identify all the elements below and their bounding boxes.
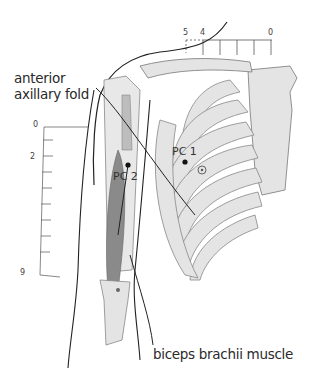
arm-scale-2: 2 <box>30 152 35 161</box>
top-scale-0: 0 <box>268 28 273 37</box>
arm-chest-illustration <box>0 0 316 383</box>
label-anterior: anterior <box>14 70 65 86</box>
top-scale-5: 5 <box>183 28 188 37</box>
top-scale-4: 4 <box>200 28 205 37</box>
top-scale <box>186 40 272 55</box>
point-pc1-label: PC 1 <box>172 145 197 158</box>
anatomy-diagram: 5 4 0 0 2 9 anterior axillary fold bicep… <box>0 0 316 383</box>
point-pc2-label: PC 2 <box>113 170 138 183</box>
arm-scale-0: 0 <box>33 120 38 129</box>
label-biceps-brachii: biceps brachii muscle <box>153 346 293 362</box>
label-axillary-fold: axillary fold <box>14 86 89 102</box>
arm-scale-9: 9 <box>20 268 25 277</box>
